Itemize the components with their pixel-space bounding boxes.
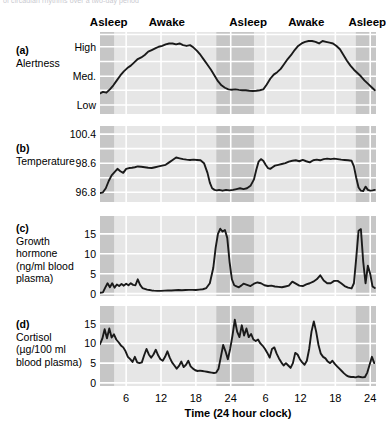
sleep-wake-header: AsleepAwakeAsleepAwakeAsleep bbox=[100, 14, 376, 30]
band-asleep-2 bbox=[216, 216, 254, 296]
x-axis: Time (24 hour clock) 61218246121824 bbox=[100, 392, 376, 422]
y-tick-alertness-0: Low bbox=[77, 100, 96, 110]
x-tick-0: 6 bbox=[123, 392, 129, 405]
state-label-asleep-0: Asleep bbox=[90, 14, 128, 30]
x-tick-3: 24 bbox=[225, 392, 237, 405]
panel-growth-hormone: (c)Growthhormone(ng/ml bloodplasma)05101… bbox=[0, 216, 378, 296]
y-tick-growth-hormone-1: 5 bbox=[90, 269, 96, 279]
plot-area-temperature bbox=[100, 126, 376, 202]
state-label-asleep-4: Asleep bbox=[348, 14, 386, 30]
y-axis-temperature: 96.898.6100.4 bbox=[56, 126, 98, 202]
x-tick-2: 18 bbox=[190, 392, 202, 405]
state-label-awake-1: Awake bbox=[149, 14, 185, 30]
band-awake-1 bbox=[115, 306, 217, 386]
y-tick-cortisol-1: 5 bbox=[90, 358, 96, 368]
y-tick-temperature-2: 100.4 bbox=[70, 129, 96, 139]
band-asleep-0 bbox=[100, 126, 115, 202]
y-tick-growth-hormone-2: 10 bbox=[84, 249, 96, 259]
band-asleep-0 bbox=[100, 306, 115, 386]
x-tick-1: 12 bbox=[155, 392, 167, 405]
band-awake-3 bbox=[254, 216, 356, 296]
y-tick-cortisol-0: 0 bbox=[90, 378, 96, 388]
y-tick-growth-hormone-0: 0 bbox=[90, 289, 96, 299]
band-awake-3 bbox=[254, 32, 356, 114]
y-tick-temperature-0: 96.8 bbox=[76, 187, 96, 197]
panel-cortisol: (d)Cortisol(µg/100 mlblood plasma)051015 bbox=[0, 306, 378, 386]
y-tick-cortisol-2: 10 bbox=[84, 338, 96, 348]
x-tick-6: 18 bbox=[329, 392, 341, 405]
top-caption-strip: of circadian rhythms over a two-day peri… bbox=[0, 0, 378, 9]
x-tick-7: 24 bbox=[364, 392, 376, 405]
plot-area-growth-hormone bbox=[100, 216, 376, 296]
y-tick-alertness-1: Med. bbox=[73, 71, 96, 81]
x-axis-title: Time (24 hour clock) bbox=[185, 407, 292, 420]
panel-temperature: (b)Temperature96.898.6100.4 bbox=[0, 126, 378, 202]
y-tick-cortisol-3: 15 bbox=[84, 319, 96, 329]
y-axis-alertness: LowMed.High bbox=[56, 32, 98, 114]
band-awake-3 bbox=[254, 306, 356, 386]
y-tick-temperature-1: 98.6 bbox=[76, 158, 96, 168]
state-label-asleep-2: Asleep bbox=[229, 14, 267, 30]
state-label-awake-3: Awake bbox=[288, 14, 324, 30]
y-axis-growth-hormone: 051015 bbox=[56, 216, 98, 296]
plot-area-cortisol bbox=[100, 306, 376, 386]
y-axis-cortisol: 051015 bbox=[56, 306, 98, 386]
panel-alertness: (a)AlertnessLowMed.High bbox=[0, 32, 378, 114]
band-awake-3 bbox=[254, 126, 356, 202]
y-tick-alertness-2: High bbox=[74, 42, 96, 52]
x-tick-5: 12 bbox=[294, 392, 306, 405]
caption-text: of circadian rhythms over a two-day peri… bbox=[0, 0, 378, 5]
band-asleep-2 bbox=[216, 32, 254, 114]
plot-area-alertness bbox=[100, 32, 376, 114]
y-tick-growth-hormone-3: 15 bbox=[84, 229, 96, 239]
band-asleep-2 bbox=[216, 306, 254, 386]
band-asleep-0 bbox=[100, 32, 115, 114]
x-tick-4: 6 bbox=[263, 392, 269, 405]
